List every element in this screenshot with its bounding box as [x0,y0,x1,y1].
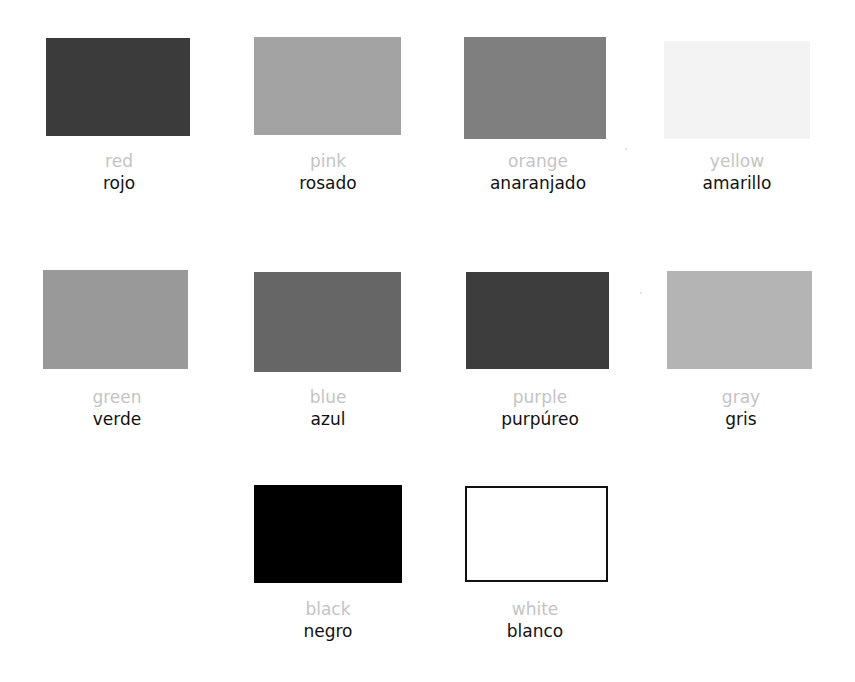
spanish-label: rojo [44,173,194,193]
spanish-label: blanco [460,621,610,641]
color-card-gray: gray gris [666,271,816,431]
spanish-label: rosado [253,173,403,193]
color-card-orange: orange anaranjado [463,37,613,197]
color-card-purple: purple purpúreo [465,272,615,432]
english-label: black [253,599,403,619]
spanish-label: azul [253,409,403,429]
color-card-green: green verde [42,270,192,430]
spanish-label: amarillo [662,173,812,193]
color-swatch [43,270,188,369]
english-label: yellow [662,151,812,171]
color-swatch [254,485,402,583]
color-swatch [254,272,401,372]
english-label: pink [253,151,403,171]
english-label: orange [463,151,613,171]
color-swatch [46,38,190,136]
print-speck [640,292,642,294]
english-label: purple [465,387,615,407]
spanish-label: purpúreo [465,409,615,429]
english-label: green [42,387,192,407]
english-label: blue [253,387,403,407]
color-swatch [667,271,812,369]
color-swatch [254,37,401,135]
spanish-label: gris [666,409,816,429]
color-swatch [465,486,608,582]
color-card-pink: pink rosado [253,37,403,197]
color-card-blue: blue azul [253,272,403,432]
color-card-yellow: yellow amarillo [662,41,812,201]
print-speck [625,148,627,150]
color-swatch [464,37,606,139]
color-card-white: white blanco [460,486,610,646]
color-card-red: red rojo [44,38,194,198]
english-label: red [44,151,194,171]
spanish-label: anaranjado [463,173,613,193]
color-swatch [664,41,810,139]
spanish-label: negro [253,621,403,641]
spanish-label: verde [42,409,192,429]
english-label: gray [666,387,816,407]
color-swatch [466,272,609,369]
color-card-black: black negro [253,485,403,645]
english-label: white [460,599,610,619]
